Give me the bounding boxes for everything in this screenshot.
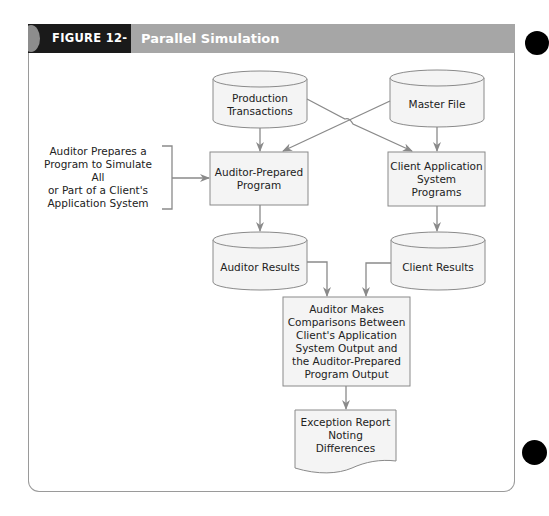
auditor-prepared-program-label: Auditor-Prepared Program xyxy=(210,152,308,205)
annotation-label: Auditor Prepares a Program to Simulate A… xyxy=(36,146,160,209)
client-application-programs-label: Client Application System Programs xyxy=(388,152,485,206)
comparison-label: Auditor Makes Comparisons Between Client… xyxy=(283,297,410,386)
annotation-bracket xyxy=(162,146,172,209)
auditor-results-label: Auditor Results xyxy=(213,250,307,284)
master-file-label: Master File xyxy=(390,87,484,121)
exception-report-label: Exception Report Noting Differences xyxy=(295,413,396,458)
edge-client-results-to-comparison xyxy=(366,263,391,296)
client-results-label: Client Results xyxy=(391,250,485,284)
edge-auditor-results-to-comparison xyxy=(307,262,327,296)
production-transactions-label: Production Transactions xyxy=(213,88,307,122)
